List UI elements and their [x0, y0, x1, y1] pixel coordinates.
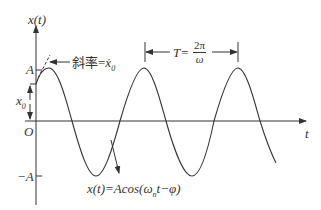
t-axis-label: t	[305, 127, 309, 140]
period-fraction: 2π ω	[193, 40, 206, 65]
equation-pointer	[111, 140, 119, 173]
cosine-curve	[36, 68, 276, 176]
period-label: T=	[173, 46, 189, 59]
initial-displacement-label: x0	[16, 94, 26, 111]
y-axis-label: x(t)	[28, 13, 46, 26]
amplitude-label: A	[26, 63, 34, 76]
origin-label: O	[24, 125, 33, 138]
slope-label: 斜率=ẋ0	[72, 56, 115, 73]
sinusoid-diagram	[0, 0, 321, 210]
equation-label: x(t)=Acos(ωnt−φ)	[87, 182, 181, 199]
neg-amplitude-label: −A	[17, 170, 34, 183]
